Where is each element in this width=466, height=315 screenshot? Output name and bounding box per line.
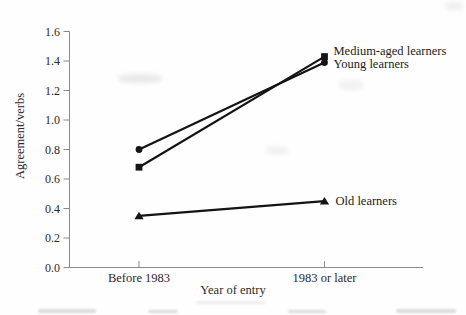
cutoff-caption-fragment — [396, 309, 456, 313]
cutoff-caption-fragment — [38, 309, 96, 313]
y-tick-label: 1.0 — [45, 113, 60, 127]
print-bleed-artifact — [338, 80, 364, 90]
x-tick-label: 1983 or later — [293, 271, 358, 285]
y-tick-label: 0.8 — [45, 143, 60, 157]
series-legend: Young learnersMedium-aged learnersOld le… — [334, 44, 447, 209]
chart-canvas: 0.00.20.40.60.81.01.21.41.6 Before 19831… — [0, 0, 466, 315]
print-bleed-artifact — [266, 146, 288, 155]
x-axis-title: Year of entry — [200, 283, 266, 297]
marker-circle-young-learners — [136, 146, 143, 153]
y-axis-title: Agreement/verbs — [13, 93, 27, 179]
y-tick-label: 0.4 — [45, 202, 60, 216]
cutoff-caption-fragment — [148, 310, 178, 313]
legend-label-medium-aged-learners: Medium-aged learners — [334, 44, 447, 58]
print-bleed-artifact — [118, 74, 162, 83]
marker-circle-young-learners — [321, 59, 328, 66]
data-series — [134, 53, 329, 219]
x-axis-ticks: Before 19831983 or later — [108, 261, 357, 285]
figure-line-chart: 0.00.20.40.60.81.01.21.41.6 Before 19831… — [0, 0, 466, 315]
x-tick-label: Before 1983 — [108, 271, 170, 285]
legend-label-young-learners: Young learners — [334, 57, 410, 71]
cutoff-caption-fragment — [288, 310, 326, 313]
y-tick-label: 1.2 — [45, 84, 60, 98]
cutoff-caption-fragment — [196, 301, 266, 304]
marker-square-medium-aged-learners — [321, 53, 328, 60]
y-tick-label: 1.4 — [45, 54, 60, 68]
y-tick-label: 0.0 — [45, 261, 60, 275]
series-line-old-learners — [139, 201, 325, 216]
y-tick-label: 1.6 — [45, 25, 60, 39]
legend-label-old-learners: Old learners — [336, 194, 398, 208]
y-tick-label: 0.2 — [45, 231, 60, 245]
print-bleed-artifact — [445, 2, 463, 10]
y-axis-ticks: 0.00.20.40.60.81.01.21.41.6 — [45, 25, 70, 275]
series-line-medium-aged-learners — [139, 57, 325, 168]
series-line-young-learners — [139, 62, 325, 149]
marker-square-medium-aged-learners — [136, 164, 143, 171]
y-tick-label: 0.6 — [45, 172, 60, 186]
